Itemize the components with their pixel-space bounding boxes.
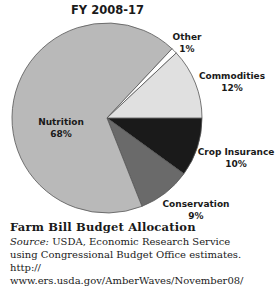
caption-line-2: using Congressional Budget Office estima…	[10, 248, 275, 274]
label-nutrition: Nutrition 68%	[28, 116, 94, 140]
figure-caption: Farm Bill Budget Allocation Source: USDA…	[10, 220, 275, 287]
caption-title: Farm Bill Budget Allocation	[10, 220, 275, 235]
caption-line-3: www.ers.usda.gov/AmberWaves/November08/	[10, 274, 275, 287]
label-crop-insurance: Crop Insurance 10%	[196, 146, 276, 170]
source-label: Source:	[10, 236, 49, 247]
label-commodities: Commodities 12%	[194, 70, 270, 94]
label-other: Other 1%	[170, 31, 204, 55]
label-conservation: Conservation 9%	[160, 198, 232, 222]
source-text: USDA, Economic Research Service	[49, 236, 230, 247]
caption-source: Source: USDA, Economic Research Service	[10, 235, 275, 248]
